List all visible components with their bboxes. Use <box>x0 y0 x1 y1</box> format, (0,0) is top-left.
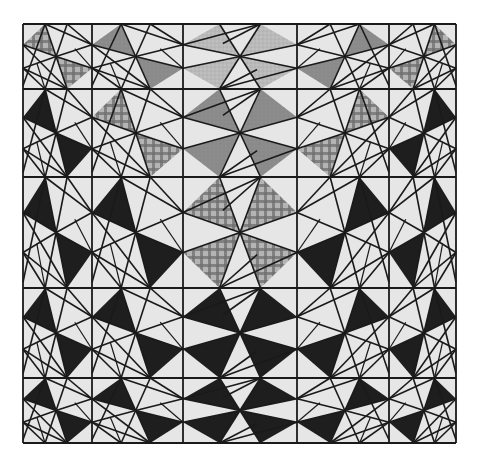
quilt-image <box>0 0 478 469</box>
